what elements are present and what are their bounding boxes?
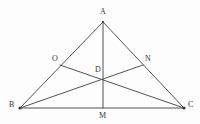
figure-canvas <box>0 0 200 124</box>
vertex-dot-C <box>182 106 185 109</box>
vertex-dot-A <box>102 21 104 23</box>
point-label-B: B <box>9 101 15 109</box>
segments-group <box>20 22 184 108</box>
point-label-N: N <box>145 55 151 63</box>
segment-BN-cevian <box>20 65 143 108</box>
segment-OC-cevian <box>60 65 184 108</box>
geometry-figure: A B C M O N D <box>0 0 200 124</box>
point-label-D: D <box>95 66 101 74</box>
vertices-group <box>18 21 185 110</box>
point-label-C: C <box>188 101 194 109</box>
point-label-A: A <box>100 8 106 16</box>
point-label-O: O <box>52 55 58 63</box>
point-label-M: M <box>99 112 106 120</box>
vertex-dot-B <box>18 106 21 109</box>
